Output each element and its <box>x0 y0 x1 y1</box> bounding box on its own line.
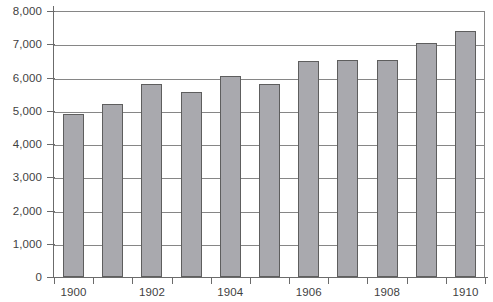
y-tick-label: 1,000 <box>13 238 42 250</box>
y-tick-mark <box>47 44 55 45</box>
y-axis: 01,0002,0003,0004,0005,0006,0007,0008,00… <box>0 0 47 302</box>
x-axis: 190019021904190619081910 <box>0 277 493 302</box>
x-tick-mark <box>446 277 447 284</box>
x-tick-mark <box>54 277 55 284</box>
x-tick-mark <box>407 277 408 284</box>
y-tick-mark <box>47 211 55 212</box>
bar <box>298 61 319 277</box>
x-tick-mark <box>250 277 251 284</box>
x-tick-mark <box>328 277 329 284</box>
y-tick-label: 3,000 <box>13 171 42 183</box>
x-tick-mark <box>132 277 133 284</box>
x-tick-label: 1906 <box>296 286 322 298</box>
x-tick-label: 1910 <box>452 286 478 298</box>
bar-chart: 01,0002,0003,0004,0005,0006,0007,0008,00… <box>0 0 493 302</box>
y-tick-mark <box>47 244 55 245</box>
x-tick-label: 1900 <box>61 286 87 298</box>
x-tick-label: 1908 <box>374 286 400 298</box>
bar <box>63 114 84 277</box>
bar <box>220 76 241 277</box>
y-tick-label: 4,000 <box>13 138 42 150</box>
x-tick-mark <box>485 277 486 284</box>
bar <box>141 84 162 277</box>
x-tick-mark <box>93 277 94 284</box>
y-tick-mark <box>47 11 55 12</box>
y-tick-label: 2,000 <box>13 205 42 217</box>
x-tick-mark <box>172 277 173 284</box>
x-tick-label: 1902 <box>139 286 165 298</box>
x-tick-mark <box>211 277 212 284</box>
y-tick-mark <box>47 177 55 178</box>
y-tick-mark <box>47 78 55 79</box>
bar <box>337 60 358 277</box>
bar <box>181 92 202 277</box>
y-tick-label: 5,000 <box>13 105 42 117</box>
bar <box>377 60 398 277</box>
x-tick-label: 1904 <box>217 286 243 298</box>
x-tick-mark <box>367 277 368 284</box>
y-tick-label: 7,000 <box>13 38 42 50</box>
bar <box>102 104 123 277</box>
y-tick-label: 8,000 <box>13 5 42 17</box>
bar <box>416 43 437 277</box>
y-tick-mark <box>47 277 55 278</box>
y-tick-mark <box>47 144 55 145</box>
bar <box>455 31 476 277</box>
bar <box>259 84 280 277</box>
bars-group <box>54 11 485 277</box>
x-tick-mark <box>289 277 290 284</box>
y-tick-mark <box>47 111 55 112</box>
y-tick-label: 6,000 <box>13 72 42 84</box>
